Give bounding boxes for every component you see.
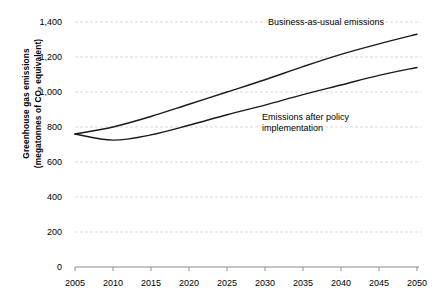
gridlines	[75, 22, 421, 232]
annotation-policy-implementation: Emissions after policy implementation	[262, 112, 349, 134]
series-line-policy	[75, 68, 417, 141]
annotation-business-as-usual: Business-as-usual emissions	[268, 17, 384, 28]
series-line-business-as-usual	[75, 34, 417, 134]
x-axis-line	[75, 267, 419, 271]
